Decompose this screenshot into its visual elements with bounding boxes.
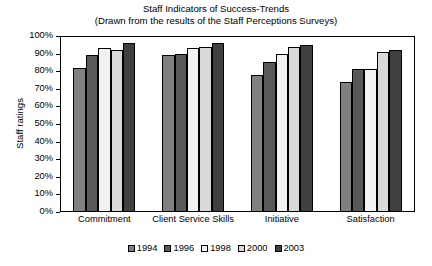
bar [377, 52, 389, 212]
bar [340, 82, 352, 212]
bars-layer [60, 36, 415, 212]
y-axis-tick-label: 30% [34, 153, 53, 163]
bar [352, 69, 364, 212]
legend-label: 1994 [137, 243, 158, 253]
y-axis-tick-label: 0% [40, 206, 53, 216]
legend-label: 2000 [247, 243, 268, 253]
bar [187, 48, 199, 212]
bar [276, 54, 288, 212]
legend-swatch-icon [275, 245, 282, 252]
y-axis-tick-label: 100% [29, 30, 53, 40]
bar [212, 43, 224, 212]
legend-label: 1996 [173, 243, 194, 253]
bar-group [149, 36, 238, 212]
y-axis-tick-label: 80% [34, 65, 53, 75]
x-axis-category-labels: CommitmentClient Service SkillsInitiativ… [60, 214, 415, 228]
bar [251, 75, 263, 212]
legend-item[interactable]: 2003 [275, 243, 305, 253]
bar [123, 43, 135, 212]
legend-item[interactable]: 1998 [201, 243, 231, 253]
bar-group [60, 36, 149, 212]
bar [86, 55, 98, 212]
x-axis-category-label: Client Service Skills [149, 214, 238, 224]
chart-subtitle: (Drawn from the results of the Staff Per… [0, 15, 432, 27]
bar [199, 47, 211, 212]
legend-label: 1998 [210, 243, 231, 253]
legend-swatch-icon [238, 245, 245, 252]
bar [364, 69, 376, 212]
y-axis-tick-label: 60% [34, 100, 53, 110]
bar-chart: Staff Indicators of Success-Trends (Draw… [0, 0, 432, 266]
legend-swatch-icon [164, 245, 171, 252]
y-axis-tick-label: 70% [34, 83, 53, 93]
bar [162, 55, 174, 212]
legend-item[interactable]: 1996 [164, 243, 194, 253]
y-axis-ticks: 100%90%80%70%60%50%40%30%20%10%0% [0, 36, 60, 212]
bar [98, 48, 110, 212]
bar [288, 47, 300, 212]
y-axis-tick-label: 50% [34, 118, 53, 128]
bar-group [326, 36, 415, 212]
bar [111, 50, 123, 212]
y-axis-tick-label: 10% [34, 188, 53, 198]
bar-group [238, 36, 327, 212]
x-axis-category-label: Commitment [60, 214, 149, 224]
chart-title: Staff Indicators of Success-Trends [0, 3, 432, 15]
legend-swatch-icon [128, 245, 135, 252]
bar [300, 45, 312, 212]
x-axis-category-label: Initiative [238, 214, 327, 224]
x-axis-category-label: Satisfaction [326, 214, 415, 224]
bar [389, 50, 401, 212]
y-axis-tick-label: 20% [34, 171, 53, 181]
chart-title-block: Staff Indicators of Success-Trends (Draw… [0, 3, 432, 27]
legend-item[interactable]: 1994 [128, 243, 158, 253]
y-axis-tick-label: 40% [34, 136, 53, 146]
legend-item[interactable]: 2000 [238, 243, 268, 253]
bar [175, 54, 187, 212]
legend: 19941996199820002003 [0, 243, 432, 253]
bar [263, 62, 275, 212]
legend-label: 2003 [284, 243, 305, 253]
y-axis-tick-label: 90% [34, 48, 53, 58]
y-axis-tick-mark [56, 212, 60, 213]
bar [73, 68, 85, 212]
legend-swatch-icon [201, 245, 208, 252]
